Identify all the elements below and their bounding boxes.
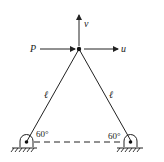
left-member (27, 49, 79, 141)
right-member-label: ℓ (109, 89, 113, 100)
left-angle-label: 60° (36, 129, 49, 139)
right-member (79, 49, 131, 141)
u-label: u (121, 43, 126, 54)
v-label: v (84, 18, 89, 29)
left-pin-support (11, 135, 37, 153)
P-label: P (29, 43, 36, 54)
left-member-label: ℓ (44, 89, 48, 100)
right-pin-support (117, 135, 143, 153)
truss-diagram: v P u ℓ ℓ 60° 60° (0, 0, 164, 162)
apex-node (77, 47, 81, 51)
right-angle-label: 60° (108, 131, 121, 141)
